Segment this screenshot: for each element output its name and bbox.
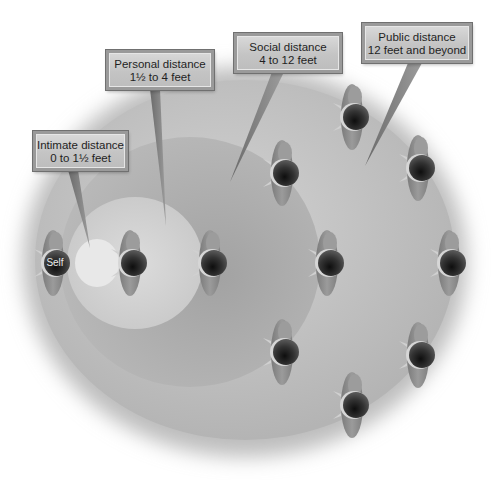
zone-range: 0 to 1½ feet <box>36 152 125 165</box>
zone-name: Intimate distance <box>36 139 125 152</box>
self-label: Self <box>40 257 70 268</box>
zone-name: Public distance <box>365 31 469 44</box>
zone-range: 4 to 12 feet <box>237 54 339 67</box>
zone-range: 1½ to 4 feet <box>109 71 211 84</box>
public-distance-label: Public distance 12 feet and beyond <box>362 23 472 63</box>
intimate-zone <box>75 239 119 287</box>
intimate-distance-label: Intimate distance 0 to 1½ feet <box>33 131 128 171</box>
zone-range: 12 feet and beyond <box>365 44 469 57</box>
personal-distance-label: Personal distance 1½ to 4 feet <box>106 50 214 90</box>
zone-name: Social distance <box>237 41 339 54</box>
proxemics-diagram: Self Intimate distance 0 to 1½ feet Pers… <box>0 0 495 480</box>
zone-name: Personal distance <box>109 58 211 71</box>
social-distance-label: Social distance 4 to 12 feet <box>234 33 342 73</box>
